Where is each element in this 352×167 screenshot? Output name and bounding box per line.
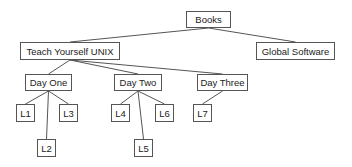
node-l4: L4 xyxy=(111,104,130,122)
node-l6: L6 xyxy=(155,104,174,122)
node-l3: L3 xyxy=(59,104,78,122)
edge-day3-l7 xyxy=(203,91,223,104)
node-day-one: Day One xyxy=(25,74,72,91)
node-day-three: Day Three xyxy=(197,74,248,91)
node-teach-yourself-unix: Teach Yourself UNIX xyxy=(20,42,120,60)
node-global-software: Global Software xyxy=(256,42,335,60)
edge-unix-day2 xyxy=(70,60,138,74)
edge-day2-l5 xyxy=(138,91,144,139)
node-day-two: Day Two xyxy=(114,74,162,91)
node-l2: L2 xyxy=(37,139,56,157)
edge-day2-l4 xyxy=(121,91,139,104)
edge-unix-day3 xyxy=(70,60,223,74)
tree-diagram: Books Teach Yourself UNIX Global Softwar… xyxy=(0,0,352,167)
node-l1: L1 xyxy=(16,104,35,122)
edge-day2-l6 xyxy=(138,91,165,104)
node-books: Books xyxy=(186,11,231,28)
node-l5: L5 xyxy=(134,139,153,157)
edge-day1-l1 xyxy=(26,91,49,104)
edge-books-global xyxy=(209,28,296,42)
node-l7: L7 xyxy=(193,104,212,122)
edge-day1-l3 xyxy=(49,91,69,104)
edge-books-unix xyxy=(70,28,209,42)
edge-unix-day1 xyxy=(49,60,71,74)
edge-day1-l2 xyxy=(47,91,49,139)
